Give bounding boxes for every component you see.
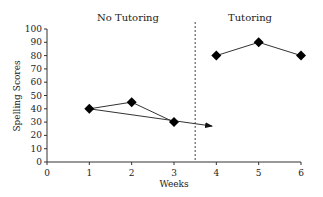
diamond-marker <box>254 37 264 47</box>
y-tick-label: 40 <box>31 104 43 114</box>
y-tick-label: 90 <box>31 37 43 47</box>
x-tick-label: 2 <box>129 168 135 178</box>
x-tick-label: 0 <box>44 168 50 178</box>
diamond-marker <box>127 97 137 107</box>
x-tick-label: 1 <box>86 168 92 178</box>
x-tick-label: 5 <box>256 168 262 178</box>
y-axis-title: Spelling Scores <box>12 60 22 132</box>
y-tick-label: 100 <box>25 24 42 34</box>
y-tick-label: 0 <box>36 157 42 167</box>
chart: 0102030405060708090100 0123456 Spelling … <box>0 0 323 197</box>
diamond-marker <box>211 51 221 61</box>
y-ticks: 0102030405060708090100 <box>25 24 47 167</box>
x-tick-label: 4 <box>213 168 219 178</box>
y-tick-label: 60 <box>31 77 43 87</box>
diamond-marker <box>84 104 94 114</box>
y-tick-label: 80 <box>31 51 43 61</box>
x-ticks: 0123456 <box>44 162 304 178</box>
x-tick-label: 3 <box>171 168 177 178</box>
phase-label-tutoring: Tutoring <box>228 12 273 23</box>
y-tick-label: 50 <box>31 91 43 101</box>
y-tick-label: 70 <box>31 64 43 74</box>
diamond-marker <box>296 51 306 61</box>
y-tick-label: 10 <box>31 144 43 154</box>
y-tick-label: 20 <box>31 130 43 140</box>
phase-label-no-tutoring: No Tutoring <box>97 12 160 23</box>
y-tick-label: 30 <box>31 117 43 127</box>
diamond-marker <box>169 117 179 127</box>
x-axis-title: Weeks <box>159 179 189 189</box>
x-tick-label: 6 <box>298 168 304 178</box>
